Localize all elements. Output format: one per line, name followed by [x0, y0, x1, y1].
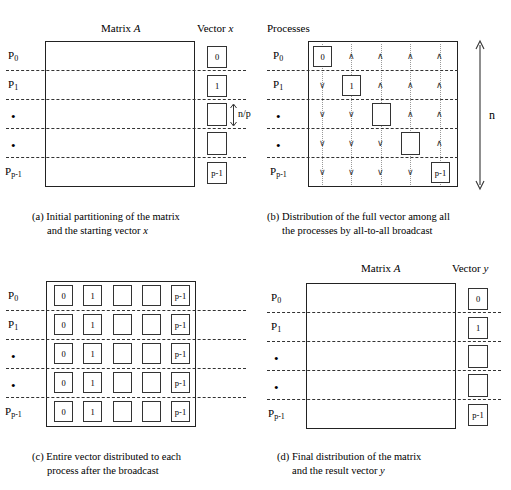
panel-b-process-label-1: P1	[273, 79, 283, 90]
panel-d-vector-cell-2	[468, 345, 488, 368]
panel-d-matrix-rect	[306, 283, 456, 429]
panel-b-up-arrow-r0c3: ∧	[407, 52, 414, 61]
panel-c-process-label-1: P1	[8, 319, 18, 330]
panel-b-diagonal-cell-2	[372, 103, 391, 126]
panel-a-vector-cell-3	[207, 132, 227, 155]
panel-c-caption-tag: (c)	[32, 451, 44, 462]
panel-d-process-label-0: P0	[271, 292, 281, 303]
panel-d-vector-cell-0: 0	[468, 288, 488, 310]
panel-a-vector-symbol: x	[228, 22, 233, 34]
panel-d-process-label-2: •	[274, 352, 279, 365]
panel-d-vector-cell-1: 1	[468, 317, 488, 339]
panel-c-divider-3	[6, 368, 246, 369]
panel-b-n-label: n	[489, 108, 495, 123]
panel-c-process-label-2: •	[11, 350, 16, 363]
panel-d-process-label-3: •	[274, 381, 279, 394]
panel-b-diagonal-cell-3	[401, 132, 420, 155]
panel-b-down-arrow-r2c1: ∨	[348, 110, 355, 119]
panel-c-cell-r0c2	[113, 285, 132, 306]
panel-c-cell-r3c0: 0	[54, 372, 73, 393]
panel-c-cell-r2c0: 0	[54, 343, 73, 364]
panel-b-divider-1	[267, 70, 458, 71]
panel-a-vector-cell-0: 0	[207, 46, 227, 68]
panel-c-cell-r2c4: p-1	[171, 343, 190, 364]
panel-d-vector-cell-3	[468, 374, 488, 397]
panel-b-down-arrow-r3c2: ∨	[377, 139, 384, 148]
panel-d-caption: (d) Final distribution of the matrix and…	[277, 450, 507, 478]
panel-c-cell-r0c0: 0	[54, 285, 73, 306]
panel-c-cell-r1c4: p-1	[171, 314, 190, 335]
panel-b-diagonal-cell-1: 1	[342, 75, 361, 96]
panel-b-caption-line1: Distribution of the full vector among al…	[282, 211, 450, 222]
panel-c-cell-r4c1: 1	[83, 401, 102, 422]
panel-b-down-arrow-r3c0: ∨	[319, 139, 326, 148]
panel-b-n-double-arrow-icon	[474, 40, 486, 190]
panel-b-up-arrow-r2c3: ∧	[407, 110, 414, 119]
panel-d-vector-symbol: y	[483, 262, 488, 274]
panel-a-matrix-heading-text: Matrix	[101, 22, 131, 34]
panel-c-divider-2	[6, 339, 246, 340]
panel-c-divider-4	[6, 397, 246, 398]
panel-a-caption-symbol: x	[143, 225, 148, 236]
panel-d-caption-symbol: y	[380, 465, 385, 476]
panel-d-matrix-symbol: A	[394, 262, 401, 274]
panel-d-divider-2	[267, 341, 501, 342]
panel-c-cell-r0c1: 1	[83, 285, 102, 306]
panel-a-matrix-heading: Matrix A	[101, 22, 140, 34]
panel-c-cell-r1c0: 0	[54, 314, 73, 335]
panel-d-process-label-1: P1	[271, 321, 281, 332]
panel-a-np-annotation: n/p	[229, 103, 238, 127]
panel-a-matrix-rect	[45, 41, 195, 187]
panel-a-caption-line1: Initial partitioning of the matrix	[46, 211, 180, 222]
panel-b-up-arrow-r1c3: ∧	[407, 81, 414, 90]
panel-b-down-arrow-r1c0: ∨	[319, 81, 326, 90]
panel-a-process-label-1: P1	[8, 79, 18, 90]
panel-b-divider-2	[267, 99, 458, 100]
panel-b-up-arrow-r0c1: ∧	[348, 52, 355, 61]
panel-a-vector-cell-4: p-1	[207, 162, 227, 184]
panel-b-down-arrow-r4c1: ∨	[348, 168, 355, 177]
panel-c-cell-r4c4: p-1	[171, 401, 190, 422]
panel-c-divider-1	[6, 310, 246, 311]
panel-c-cell-r1c2	[113, 314, 132, 335]
panel-b-diagonal-cell-0: 0	[313, 46, 332, 67]
panel-d-caption-line2: and the result vector	[292, 465, 377, 476]
panel-b-up-arrow-r0c4: ∧	[436, 52, 443, 61]
panel-b-caption-tag: (b)	[267, 211, 279, 222]
panel-c-cell-r4c2	[113, 401, 132, 422]
panel-d-divider-3	[267, 370, 501, 371]
panel-a-process-label-2: •	[11, 110, 16, 123]
panel-a-caption-line2: and the starting vector	[47, 225, 141, 236]
panel-c-cell-r3c2	[113, 372, 132, 393]
panel-a-vector-heading-text: Vector	[197, 22, 226, 34]
panel-b-up-arrow-r3c4: ∧	[436, 139, 443, 148]
panel-c-cell-r2c3	[142, 343, 161, 364]
panel-c-cell-r0c3	[142, 285, 161, 306]
panel-a-divider-3	[6, 128, 246, 129]
panel-a-matrix-symbol: A	[134, 22, 141, 34]
panel-b-up-arrow-r2c4: ∧	[436, 110, 443, 119]
panel-b-down-arrow-r4c3: ∨	[407, 168, 414, 177]
panel-b-process-label-3: •	[276, 139, 281, 152]
panel-d-caption-tag: (d)	[277, 451, 289, 462]
panel-c-process-label-4: Pp-1	[5, 406, 22, 417]
panel-c-cell-r1c1: 1	[83, 314, 102, 335]
panel-a-np-label: n/p	[238, 109, 251, 120]
panel-a-divider-1	[6, 70, 246, 71]
panel-a-process-label-0: P0	[8, 50, 18, 61]
panel-b-down-arrow-r4c2: ∨	[377, 168, 384, 177]
panel-c-caption-line2: process after the broadcast	[47, 465, 159, 476]
panel-d-vector-heading: Vector y	[452, 262, 488, 274]
panel-b-processes-heading: Processes	[267, 22, 310, 34]
panel-b-up-arrow-r1c2: ∧	[377, 81, 384, 90]
panel-c-cell-r2c2	[113, 343, 132, 364]
panel-d-process-label-4: Pp-1	[268, 408, 285, 419]
panel-b-down-arrow-r2c0: ∨	[319, 110, 326, 119]
panel-d-matrix-heading-text: Matrix	[361, 262, 391, 274]
panel-b-up-arrow-r0c2: ∧	[377, 52, 384, 61]
panel-c-cell-r4c3	[142, 401, 161, 422]
panel-c-cell-r4c0: 0	[54, 401, 73, 422]
panel-c-caption: (c) Entire vector distributed to each pr…	[32, 450, 247, 478]
panel-b-divider-4	[267, 157, 458, 158]
panel-d-divider-1	[267, 312, 501, 313]
